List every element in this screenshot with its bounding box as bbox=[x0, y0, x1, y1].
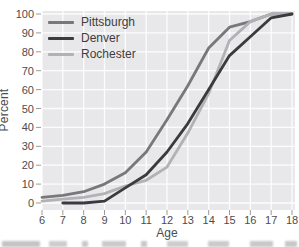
y-tick-label: 70 bbox=[4, 65, 34, 77]
legend-swatch-pittsburgh bbox=[48, 21, 74, 24]
legend-label-rochester: Rochester bbox=[81, 47, 136, 61]
y-tick-label: 80 bbox=[4, 46, 34, 58]
x-tick-label: 9 bbox=[95, 214, 115, 226]
legend-swatch-rochester bbox=[48, 53, 74, 56]
y-tick-label: 10 bbox=[4, 178, 34, 190]
x-tick-label: 18 bbox=[282, 214, 299, 226]
y-tick-label: 40 bbox=[4, 121, 34, 133]
x-tick-label: 12 bbox=[157, 214, 177, 226]
legend-item-denver: Denver bbox=[48, 30, 136, 46]
x-tick-label: 16 bbox=[240, 214, 260, 226]
x-tick-label: 6 bbox=[32, 214, 52, 226]
legend-label-pittsburgh: Pittsburgh bbox=[81, 15, 135, 29]
y-tick-label: 90 bbox=[4, 27, 34, 39]
plot-area bbox=[0, 0, 299, 247]
y-tick-label: 100 bbox=[4, 8, 34, 20]
y-tick-label: 60 bbox=[4, 84, 34, 96]
legend-item-pittsburgh: Pittsburgh bbox=[48, 14, 136, 30]
x-tick-label: 14 bbox=[199, 214, 219, 226]
x-tick-label: 17 bbox=[261, 214, 281, 226]
x-tick-label: 7 bbox=[53, 214, 73, 226]
x-tick-label: 13 bbox=[178, 214, 198, 226]
legend-item-rochester: Rochester bbox=[48, 46, 136, 62]
legend: Pittsburgh Denver Rochester bbox=[48, 14, 136, 62]
legend-label-denver: Denver bbox=[81, 31, 120, 45]
cropped-caption-artifact bbox=[2, 241, 297, 247]
x-tick-label: 10 bbox=[115, 214, 135, 226]
x-axis-title: Age bbox=[42, 226, 292, 240]
legend-swatch-denver bbox=[48, 37, 74, 40]
cumulative-age-chart: Percent Age Pittsburgh Denver Rochester … bbox=[0, 0, 299, 247]
y-tick-label: 50 bbox=[4, 103, 34, 115]
x-tick-label: 11 bbox=[136, 214, 156, 226]
y-tick-label: 0 bbox=[4, 197, 34, 209]
y-tick-label: 20 bbox=[4, 159, 34, 171]
x-tick-label: 8 bbox=[74, 214, 94, 226]
x-tick-label: 15 bbox=[220, 214, 240, 226]
y-tick-label: 30 bbox=[4, 140, 34, 152]
